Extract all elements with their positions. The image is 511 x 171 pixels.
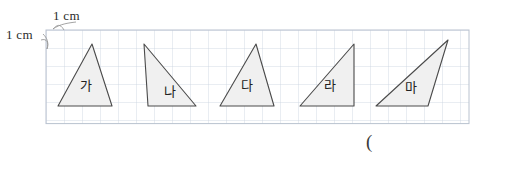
shape-label-na: 나 (164, 84, 176, 99)
shape-label-ga: 가 (80, 78, 92, 93)
answer-blank-parenthesis: ( (366, 131, 372, 153)
scale-label-vertical: 1 cm (6, 27, 33, 43)
shape-label-da: 다 (241, 78, 253, 93)
grid-and-shapes-canvas: 가 나 다 라 마 (0, 0, 511, 171)
worksheet-figure: 가 나 다 라 마 1 cm 1 cm ( (0, 0, 511, 171)
scale-label-horizontal: 1 cm (53, 8, 80, 24)
shape-label-ma: 마 (405, 80, 417, 95)
shape-label-ra: 라 (324, 78, 336, 93)
